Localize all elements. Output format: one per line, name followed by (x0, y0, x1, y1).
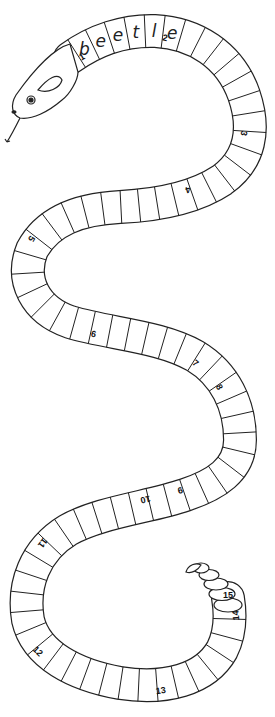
clue-number: 15 (223, 590, 233, 600)
cell-letter[interactable]: l (152, 21, 157, 41)
cell-letter[interactable]: e (167, 23, 177, 43)
cell-letter[interactable]: e (96, 31, 106, 51)
cell-letter[interactable]: e (113, 25, 123, 45)
clue-number: 13 (155, 685, 166, 696)
snake-board: 123456789101112131415 beetle (0, 0, 275, 717)
snake-head-icon (5, 44, 78, 142)
clue-number: 14 (230, 610, 241, 621)
cell-letter[interactable]: b (79, 39, 90, 59)
